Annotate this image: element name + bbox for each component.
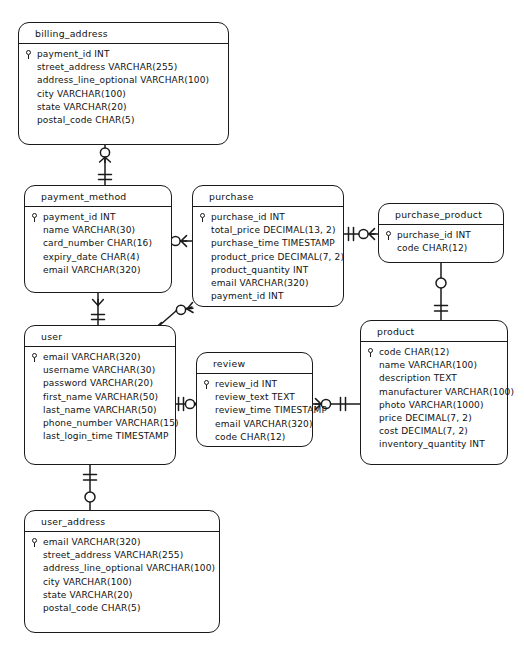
entity-title-payment_method: payment_method [25, 186, 171, 207]
entity-title-purchase: purchase [193, 186, 343, 207]
attribute: city VARCHAR(100) [32, 576, 214, 589]
attribute-label: cost DECIMAL(7, 2) [379, 426, 468, 436]
entity-purchase_product[interactable]: purchase_productpurchase_id INTcode CHAR… [378, 203, 504, 263]
attribute: code CHAR(12) [204, 431, 307, 444]
attribute: street_address VARCHAR(255) [26, 61, 223, 74]
primary-key-attribute: payment_id INT [32, 211, 166, 224]
entity-title-billing_address: billing_address [19, 23, 228, 44]
attribute: purchase_time TIMESTAMP [200, 237, 338, 250]
connector-billing-address-payment-method [99, 145, 112, 185]
attribute-label: postal_code CHAR(5) [37, 115, 135, 125]
attribute-label: city VARCHAR(100) [43, 577, 132, 587]
attribute-label: street_address VARCHAR(255) [43, 550, 183, 560]
key-icon [26, 50, 31, 55]
attribute: expiry_date CHAR(4) [32, 251, 166, 264]
entity-user_address[interactable]: user_addressemail VARCHAR(320)street_add… [24, 510, 220, 633]
attribute-label: expiry_date CHAR(4) [43, 252, 140, 262]
attribute-label: street_address VARCHAR(255) [37, 62, 177, 72]
attribute-label: last_login_time TIMESTAMP [43, 431, 169, 441]
attribute-label: product_price DECIMAL(7, 2) [211, 252, 344, 262]
attribute-list-purchase_product: purchase_id INTcode CHAR(12) [379, 225, 503, 260]
primary-key-attribute: purchase_id INT [200, 211, 338, 224]
attribute-label: code CHAR(12) [215, 432, 285, 442]
entity-title-user_address: user_address [25, 511, 219, 532]
attribute: manufacturer VARCHAR(100) [368, 386, 502, 399]
primary-key-attribute: email VARCHAR(320) [32, 536, 214, 549]
attribute-label: payment_id INT [37, 49, 110, 59]
entity-review[interactable]: reviewreview_id INTreview_text TEXTrevie… [196, 352, 313, 447]
attribute-label: card_number CHAR(16) [43, 238, 152, 248]
attribute-label: email VARCHAR(320) [211, 278, 309, 288]
attribute-label: product_quantity INT [211, 265, 308, 275]
attribute-label: email VARCHAR(320) [43, 265, 141, 275]
attribute: first_name VARCHAR(50) [32, 391, 170, 404]
attribute-label: photo VARCHAR(1000) [379, 400, 484, 410]
attribute: product_quantity INT [200, 264, 338, 277]
entity-payment_method[interactable]: payment_methodpayment_id INTname VARCHAR… [24, 185, 172, 293]
attribute-label: purchase_id INT [397, 230, 471, 240]
attribute: email VARCHAR(320) [32, 264, 166, 277]
primary-key-attribute: review_id INT [204, 378, 307, 391]
attribute-label: postal_code CHAR(5) [43, 603, 141, 613]
entity-purchase[interactable]: purchasepurchase_id INTtotal_price DECIM… [192, 185, 344, 307]
attribute: address_line_optional VARCHAR(100) [32, 562, 214, 575]
attribute: price DECIMAL(7, 2) [368, 412, 502, 425]
attribute-label: address_line_optional VARCHAR(100) [37, 75, 209, 85]
attribute: state VARCHAR(20) [32, 589, 214, 602]
attribute-label: review_id INT [215, 379, 277, 389]
attribute-label: review_time TIMESTAMP [215, 405, 327, 415]
attribute: payment_id INT [200, 290, 338, 303]
attribute: inventory_quantity INT [368, 438, 502, 451]
attribute-label: last_name VARCHAR(50) [43, 405, 157, 415]
attribute-label: city VARCHAR(100) [37, 89, 126, 99]
attribute-label: manufacturer VARCHAR(100) [379, 387, 514, 397]
attribute: photo VARCHAR(1000) [368, 399, 502, 412]
attribute: review_text TEXT [204, 391, 307, 404]
attribute-label: email VARCHAR(320) [215, 419, 313, 429]
attribute: email VARCHAR(320) [204, 418, 307, 431]
attribute: postal_code CHAR(5) [26, 114, 223, 127]
attribute-list-user: email VARCHAR(320)username VARCHAR(30)pa… [25, 347, 175, 448]
entity-title-product: product [361, 321, 507, 342]
attribute-label: name VARCHAR(100) [379, 360, 477, 370]
attribute-label: purchase_id INT [211, 212, 285, 222]
key-icon [32, 353, 37, 358]
attribute: address_line_optional VARCHAR(100) [26, 74, 223, 87]
attribute: card_number CHAR(16) [32, 237, 166, 250]
attribute-label: username VARCHAR(30) [43, 365, 155, 375]
attribute: password VARCHAR(20) [32, 377, 170, 390]
attribute-label: email VARCHAR(320) [43, 352, 141, 362]
primary-key-attribute: code CHAR(12) [368, 346, 502, 359]
attribute-label: description TEXT [379, 373, 457, 383]
attribute-label: code CHAR(12) [397, 243, 467, 253]
attribute-label: review_text TEXT [215, 392, 295, 402]
attribute-label: name VARCHAR(30) [43, 225, 135, 235]
attribute: postal_code CHAR(5) [32, 602, 214, 615]
attribute: username VARCHAR(30) [32, 364, 170, 377]
attribute: last_name VARCHAR(50) [32, 404, 170, 417]
attribute-label: payment_id INT [211, 291, 284, 301]
attribute-label: first_name VARCHAR(50) [43, 392, 158, 402]
attribute-list-billing_address: payment_id INTstreet_address VARCHAR(255… [19, 44, 228, 132]
attribute-list-user_address: email VARCHAR(320)street_address VARCHAR… [25, 532, 219, 620]
entity-user[interactable]: useremail VARCHAR(320)username VARCHAR(3… [24, 325, 176, 465]
attribute: review_time TIMESTAMP [204, 404, 307, 417]
entity-billing_address[interactable]: billing_addresspayment_id INTstreet_addr… [18, 22, 229, 145]
entity-product[interactable]: productcode CHAR(12)name VARCHAR(100)des… [360, 320, 508, 465]
key-icon [386, 231, 391, 236]
key-icon [368, 348, 373, 353]
attribute: name VARCHAR(100) [368, 359, 502, 372]
connector-user-user-address [84, 465, 97, 510]
attribute-label: total_price DECIMAL(13, 2) [211, 225, 336, 235]
attribute: state VARCHAR(20) [26, 101, 223, 114]
attribute-label: phone_number VARCHAR(15) [43, 418, 179, 428]
attribute-label: email VARCHAR(320) [43, 537, 141, 547]
attribute: last_login_time TIMESTAMP [32, 430, 170, 443]
attribute: city VARCHAR(100) [26, 88, 223, 101]
attribute: total_price DECIMAL(13, 2) [200, 224, 338, 237]
attribute-label: code CHAR(12) [379, 347, 449, 357]
key-icon [32, 538, 37, 543]
entity-title-user: user [25, 326, 175, 347]
key-icon [204, 380, 209, 385]
attribute: product_price DECIMAL(7, 2) [200, 251, 338, 264]
